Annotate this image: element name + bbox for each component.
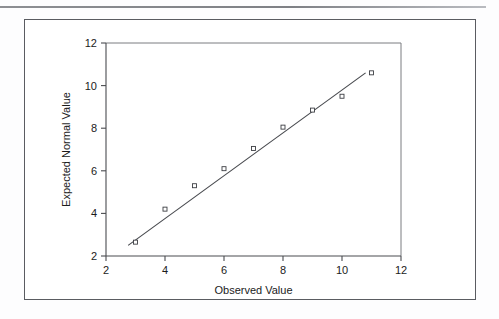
page-canvas: 2468101224681012Observed ValueExpected N…	[0, 0, 499, 319]
y-tick-label: 10	[85, 80, 97, 92]
data-point-marker	[163, 207, 167, 211]
x-tick-label: 6	[221, 264, 227, 276]
y-tick-label: 6	[91, 165, 97, 177]
data-point-marker	[281, 125, 285, 129]
data-point-marker	[370, 71, 374, 75]
qq-plot-chart: 2468101224681012Observed ValueExpected N…	[25, 20, 475, 299]
plot-svg: 2468101224681012Observed ValueExpected N…	[25, 20, 477, 301]
x-tick-label: 8	[280, 264, 286, 276]
reference-fit-line	[128, 73, 365, 246]
x-tick-label: 4	[162, 264, 168, 276]
top-divider-rule	[0, 6, 486, 8]
figure-box: 2468101224681012Observed ValueExpected N…	[24, 19, 476, 300]
y-tick-label: 4	[91, 207, 97, 219]
data-point-marker	[222, 167, 226, 171]
x-tick-label: 2	[103, 264, 109, 276]
y-axis-title: Expected Normal Value	[60, 92, 72, 207]
data-point-marker	[311, 108, 315, 112]
x-tick-label: 12	[395, 264, 407, 276]
x-tick-label: 10	[336, 264, 348, 276]
data-point-marker	[193, 184, 197, 188]
data-point-marker	[252, 146, 256, 150]
y-tick-label: 8	[91, 122, 97, 134]
y-tick-label: 2	[91, 250, 97, 262]
data-point-marker	[340, 94, 344, 98]
x-axis-title: Observed Value	[214, 284, 292, 296]
data-point-marker	[134, 240, 138, 244]
y-tick-label: 12	[85, 37, 97, 49]
